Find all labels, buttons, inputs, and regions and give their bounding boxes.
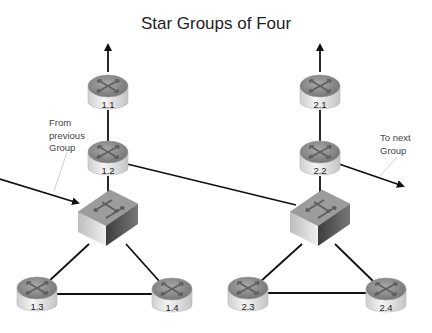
svg-text:2.3: 2.3: [241, 301, 254, 312]
router-1-4: 1.4: [152, 278, 192, 313]
network-diagram: 1.1 1.2 1.3 1.4 2.1 2.2 2.3 2.4: [0, 0, 432, 333]
router-2-4: 2.4: [366, 278, 406, 313]
svg-text:1.4: 1.4: [165, 302, 178, 313]
router-2-3: 2.3: [228, 277, 268, 312]
from-previous-arrow: [0, 179, 78, 203]
group-2-switch: [290, 190, 350, 246]
svg-text:1.3: 1.3: [30, 301, 43, 312]
router-2-2: 2.2: [300, 141, 340, 176]
svg-text:2.4: 2.4: [379, 302, 392, 313]
svg-text:2.1: 2.1: [313, 99, 326, 110]
router-1-1: 1.1: [88, 75, 128, 110]
group-1-switch: [78, 190, 138, 246]
svg-text:1.2: 1.2: [101, 165, 114, 176]
router-2-1: 2.1: [300, 75, 340, 110]
to-next-arrow: [339, 164, 403, 186]
router-1-2: 1.2: [88, 141, 128, 176]
router-1-3: 1.3: [17, 277, 57, 312]
diagram-canvas: Star Groups of Four From previous Group …: [0, 0, 432, 333]
svg-text:1.1: 1.1: [101, 99, 114, 110]
connection-lines: [0, 45, 403, 294]
svg-text:2.2: 2.2: [313, 165, 326, 176]
